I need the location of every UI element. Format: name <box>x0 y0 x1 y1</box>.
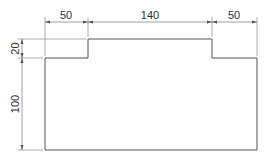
technical-drawing: 50 140 50 20 100 <box>0 0 268 158</box>
dim-label-left-body: 100 <box>9 95 21 113</box>
part-outline <box>45 39 257 150</box>
dim-label-top-middle: 140 <box>141 9 159 21</box>
dim-label-top-left: 50 <box>60 9 72 21</box>
extension-lines-top <box>45 17 257 56</box>
dim-label-left-step: 20 <box>9 42 21 54</box>
extension-lines-left <box>18 39 86 150</box>
dim-label-top-right: 50 <box>228 9 240 21</box>
